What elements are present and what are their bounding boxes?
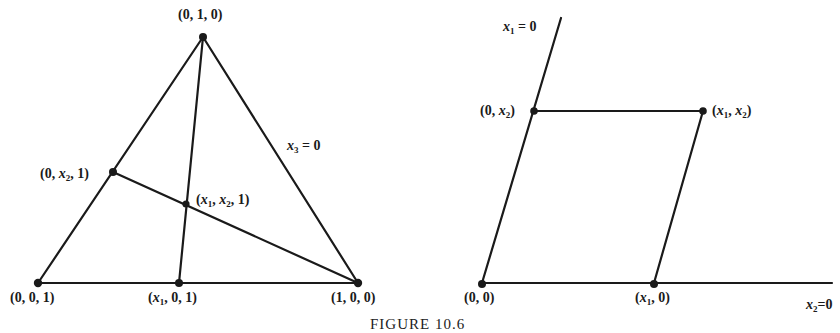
cevian-right-to-left-edge: [113, 172, 358, 283]
var: x: [499, 103, 506, 118]
label-text: (0, 0): [464, 290, 494, 305]
var: x: [717, 103, 724, 118]
label-x3-zero: x3 = 0: [287, 139, 320, 155]
label-x2-zero: x2=0: [806, 298, 832, 314]
label-text: (1, 0, 0): [331, 290, 375, 305]
label-text: (0, 1, 0): [178, 7, 222, 22]
point-0-x2: [530, 107, 538, 115]
rest: = 0: [515, 19, 537, 34]
var: x: [806, 297, 813, 312]
label-origin: (0, 0): [464, 291, 494, 305]
point-origin: [478, 280, 486, 288]
label-100: (1, 0, 0): [331, 291, 375, 305]
parallelogram-right-edge: [654, 111, 703, 283]
var: x: [640, 290, 647, 305]
label-x1-x2: (x1, x2): [712, 104, 751, 120]
label-x1-zero: x1 = 0: [503, 20, 536, 36]
point-x1-x2-1: [182, 200, 189, 207]
var: x: [503, 19, 510, 34]
var: x: [59, 166, 66, 181]
label-010: (0, 1, 0): [178, 8, 222, 22]
figure-caption: FIGURE 10.6: [370, 316, 465, 333]
p: ): [747, 103, 752, 118]
label-x1-0-1: (x1, 0, 1): [148, 291, 197, 307]
var: x: [201, 192, 208, 207]
label-001: (0, 0, 1): [10, 291, 54, 305]
x1-zero-axis: [482, 18, 561, 283]
point-x1-0: [650, 280, 658, 288]
label-0-x2: (0, x2): [480, 104, 515, 120]
label-x1-0: (x1, 0): [635, 291, 670, 307]
p: , 1): [231, 192, 250, 207]
label-text: (0, 0, 1): [10, 290, 54, 305]
cevian-top-to-base: [179, 37, 203, 283]
triangle-left-edge: [38, 37, 203, 283]
var: x: [287, 138, 294, 153]
rest: = 0: [299, 138, 321, 153]
point-0-x2-1: [109, 168, 117, 176]
label-0-x2-1: (0, x2, 1): [40, 167, 89, 183]
point-010: [199, 33, 207, 41]
p: , 1): [70, 166, 89, 181]
triangle-right-edge: [203, 37, 358, 283]
point-001: [34, 279, 42, 287]
point-x1-0-1: [175, 279, 183, 287]
point-100: [354, 279, 362, 287]
point-x1-x2: [699, 107, 707, 115]
rest: =0: [818, 297, 833, 312]
p: , 0, 1): [164, 290, 197, 305]
p: (0,: [480, 103, 499, 118]
p: , 0): [651, 290, 670, 305]
label-x1-x2-1: (x1, x2, 1): [196, 193, 249, 209]
p: (0,: [40, 166, 59, 181]
var: x: [153, 290, 160, 305]
p: ): [510, 103, 515, 118]
